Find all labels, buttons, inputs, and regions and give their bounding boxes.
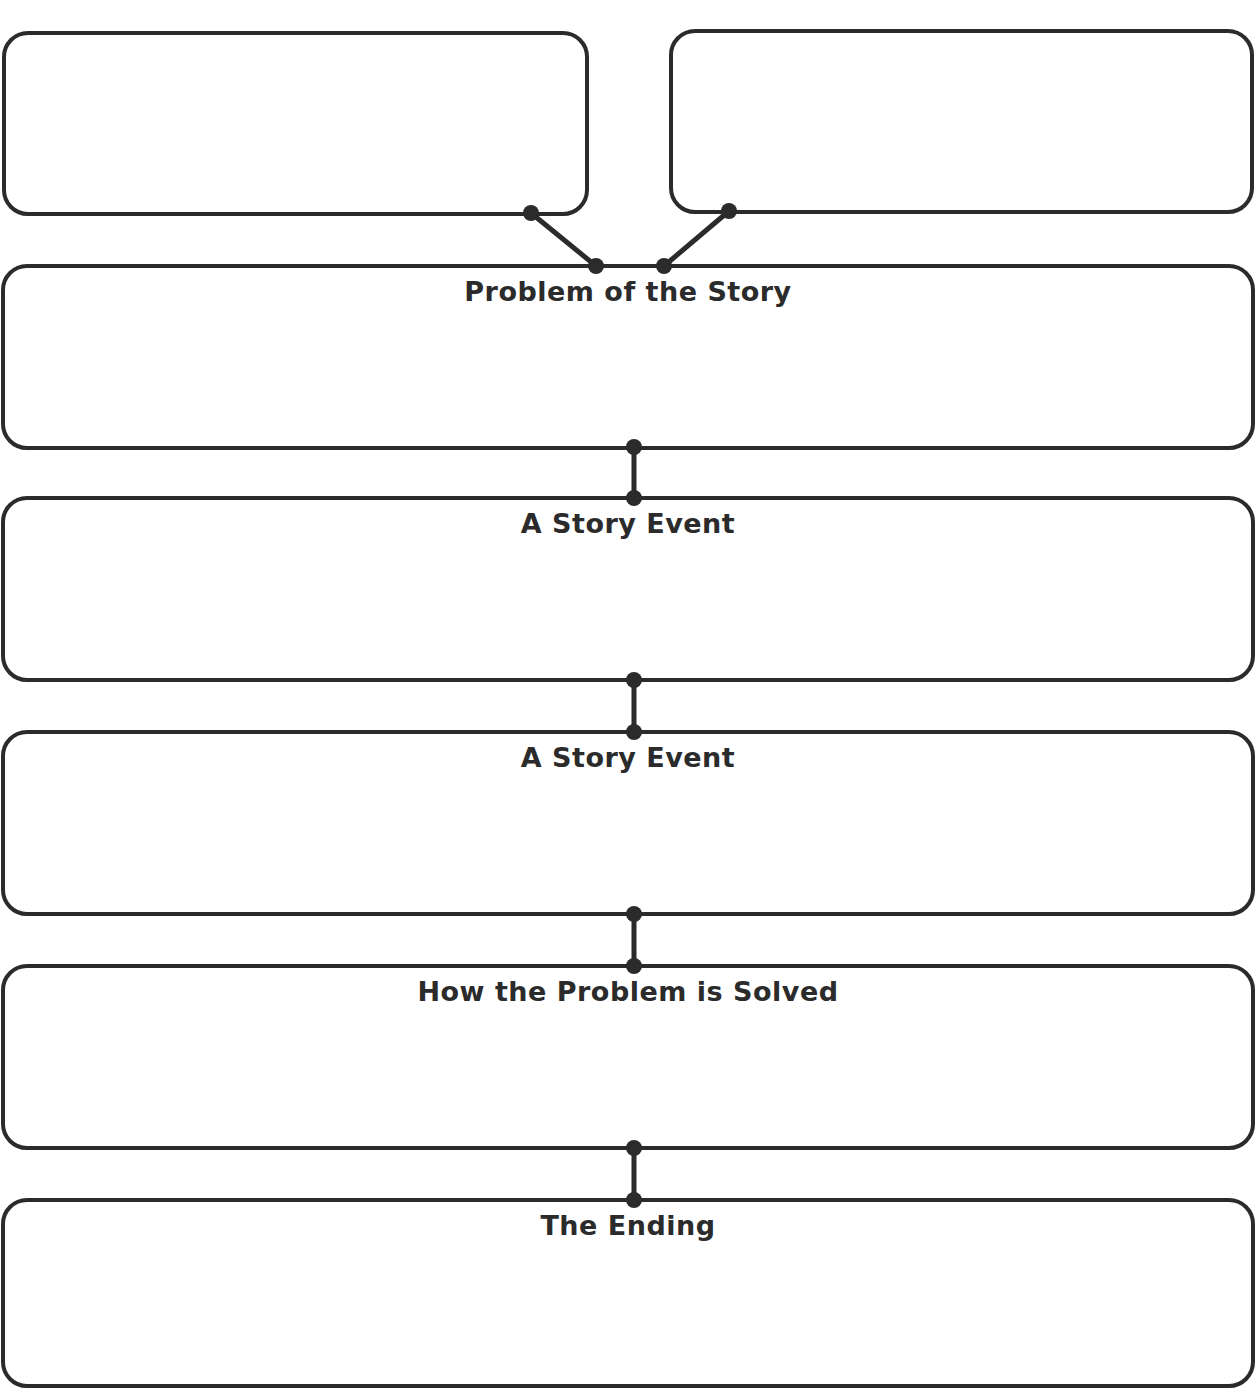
story-event-1-label: A Story Event bbox=[5, 508, 1251, 539]
story-event-2-box[interactable]: A Story Event bbox=[1, 730, 1255, 916]
story-event-1-box[interactable]: A Story Event bbox=[1, 496, 1255, 682]
connector-top-left bbox=[531, 213, 596, 266]
top-left-box[interactable] bbox=[2, 31, 589, 216]
how-the-problem-is-solved-label: How the Problem is Solved bbox=[5, 976, 1251, 1007]
problem-of-the-story-label: Problem of the Story bbox=[5, 276, 1251, 307]
how-the-problem-is-solved-box[interactable]: How the Problem is Solved bbox=[1, 964, 1255, 1150]
connector-top-right bbox=[664, 211, 729, 266]
the-ending-box[interactable]: The Ending bbox=[1, 1198, 1255, 1388]
top-right-box[interactable] bbox=[669, 29, 1254, 214]
story-event-2-label: A Story Event bbox=[5, 742, 1251, 773]
problem-of-the-story-box[interactable]: Problem of the Story bbox=[1, 264, 1255, 450]
the-ending-label: The Ending bbox=[5, 1210, 1251, 1241]
